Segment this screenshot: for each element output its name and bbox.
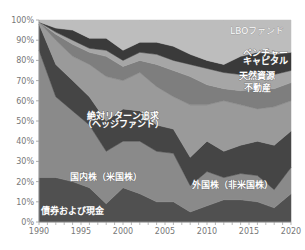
x-tick-label: 2015 — [239, 227, 259, 236]
series-label: 国内株（米国株） — [70, 171, 142, 182]
y-tick-label: 20% — [16, 178, 34, 187]
x-tick-label: 1995 — [71, 227, 91, 236]
series-label: 債券および現金 — [40, 205, 105, 216]
y-tick-label: 70% — [16, 77, 34, 86]
series-label: （ヘッジファンド） — [83, 119, 164, 129]
x-tick-label: 2020 — [281, 227, 301, 236]
series-label: キャピタル — [243, 55, 288, 66]
series-label: LBOファンド — [230, 26, 284, 36]
x-tick-label: 1990 — [29, 227, 49, 236]
y-tick-label: 0% — [21, 218, 34, 227]
y-tick-label: 60% — [16, 97, 34, 106]
x-tick-label: 2010 — [197, 227, 217, 236]
y-tick-label: 100% — [11, 16, 34, 25]
x-tick-label: 2000 — [113, 227, 133, 236]
x-tick-label: 2005 — [155, 227, 175, 236]
y-axis-ticks: 0%10%20%30%40%50%60%70%80%90%100% — [11, 16, 39, 227]
y-tick-label: 30% — [16, 157, 34, 166]
y-tick-label: 90% — [16, 36, 34, 45]
x-axis-ticks: 1990199520002005201020152020 — [29, 222, 301, 236]
series-label: 不動産 — [244, 82, 271, 93]
series-label: 天然資源 — [239, 70, 275, 81]
y-tick-label: 10% — [16, 198, 34, 207]
y-tick-label: 50% — [16, 117, 34, 126]
series-label: 外国株（非米国株） — [191, 179, 273, 190]
y-tick-label: 80% — [16, 56, 34, 65]
stacked-area-chart: 0%10%20%30%40%50%60%70%80%90%100% 199019… — [0, 0, 305, 250]
y-tick-label: 40% — [16, 137, 34, 146]
